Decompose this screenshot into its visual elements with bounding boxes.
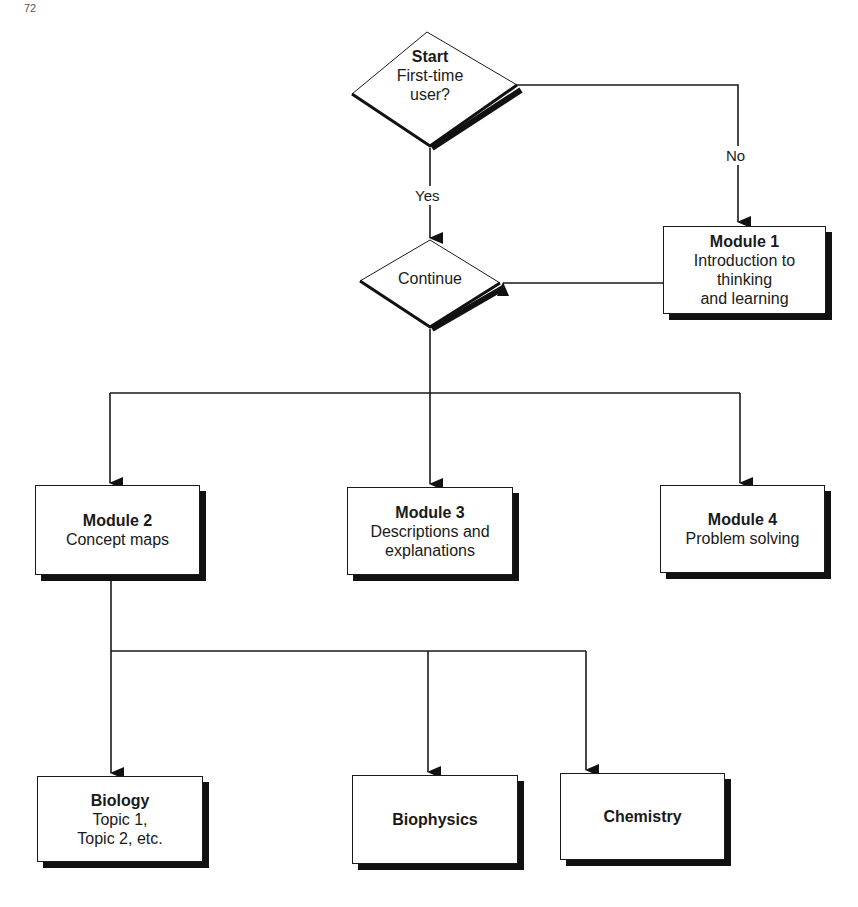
module-3-line-1: Descriptions and xyxy=(370,522,489,541)
start-line-2: user? xyxy=(380,85,480,104)
module-4-title: Module 4 xyxy=(708,510,777,529)
chemistry-title: Chemistry xyxy=(603,807,681,826)
biology-box[interactable]: Biology Topic 1, Topic 2, etc. xyxy=(37,776,203,862)
biology-title: Biology xyxy=(91,791,150,810)
chemistry-box[interactable]: Chemistry xyxy=(560,773,725,860)
module-3-box[interactable]: Module 3 Descriptions and explanations xyxy=(347,487,513,575)
module-1-title: Module 1 xyxy=(710,232,779,251)
continue-decision-label: Continue xyxy=(380,269,480,288)
biophysics-box[interactable]: Biophysics xyxy=(352,775,518,864)
page-number: 72 xyxy=(24,2,36,14)
module-1-box[interactable]: Module 1 Introduction to thinking and le… xyxy=(663,226,826,314)
module-1-line-2: thinking xyxy=(717,270,772,289)
module-2-box[interactable]: Module 2 Concept maps xyxy=(35,485,200,575)
yes-label: Yes xyxy=(415,186,439,205)
module-4-line-1: Problem solving xyxy=(686,529,800,548)
continue-text: Continue xyxy=(380,269,480,288)
flowchart-connectors xyxy=(0,0,858,907)
biology-line-2: Topic 2, etc. xyxy=(77,829,162,848)
module-3-line-2: explanations xyxy=(385,541,475,560)
module-2-line-1: Concept maps xyxy=(66,530,169,549)
start-title: Start xyxy=(380,47,480,66)
module-1-line-1: Introduction to xyxy=(694,251,795,270)
start-line-1: First-time xyxy=(380,66,480,85)
start-decision-label: Start First-time user? xyxy=(380,47,480,104)
module-1-line-3: and learning xyxy=(700,289,788,308)
biophysics-title: Biophysics xyxy=(392,810,477,829)
biology-line-1: Topic 1, xyxy=(92,810,147,829)
no-label: No xyxy=(726,146,745,165)
module-3-title: Module 3 xyxy=(395,503,464,522)
module-4-box[interactable]: Module 4 Problem solving xyxy=(660,485,825,573)
module-2-title: Module 2 xyxy=(83,511,152,530)
no-connector xyxy=(517,85,738,222)
